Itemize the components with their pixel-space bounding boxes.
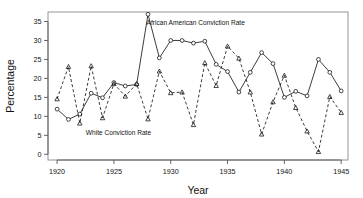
annotation-african-american: African American Conviction Rate	[147, 19, 246, 26]
x-tick-label: 1935	[220, 167, 236, 176]
data-point	[305, 94, 309, 98]
y-tick-label: 5	[38, 131, 42, 140]
data-point	[101, 96, 105, 100]
data-point	[123, 84, 127, 88]
conviction-rate-line-chart: 05101520253035 192019251930193519401945 …	[0, 0, 363, 198]
data-point	[237, 90, 241, 94]
data-point	[328, 70, 332, 74]
y-tick-label: 25	[34, 55, 42, 64]
x-axis-title: Year	[187, 184, 209, 196]
data-point	[282, 95, 286, 99]
x-tick-label: 1930	[163, 167, 179, 176]
x-tick-label: 1945	[333, 167, 349, 176]
data-point	[89, 91, 93, 95]
x-tick-label: 1920	[49, 167, 65, 176]
y-tick-label: 0	[38, 150, 42, 159]
data-point	[180, 39, 184, 43]
data-point	[55, 107, 59, 111]
data-point	[226, 70, 230, 74]
data-point	[339, 89, 343, 93]
data-point	[146, 12, 150, 16]
y-tick-label: 30	[34, 36, 42, 45]
y-axis-title: Percentage	[4, 59, 16, 113]
y-tick-label: 20	[34, 74, 42, 83]
y-tick-label: 35	[34, 17, 42, 26]
data-point	[214, 62, 218, 66]
data-point	[192, 41, 196, 45]
data-point	[203, 39, 207, 43]
data-point	[260, 51, 264, 55]
data-point	[169, 39, 173, 43]
annotation-white: White Conviction Rate	[86, 129, 152, 136]
data-point	[157, 56, 161, 60]
data-point	[317, 58, 321, 62]
data-point	[271, 62, 275, 66]
data-point	[248, 70, 252, 74]
x-tick-label: 1940	[276, 167, 292, 176]
y-tick-label: 10	[34, 112, 42, 121]
x-tick-label: 1925	[106, 167, 122, 176]
data-point	[294, 89, 298, 93]
chart-figure: 05101520253035 192019251930193519401945 …	[0, 0, 363, 198]
y-tick-label: 15	[34, 93, 42, 102]
data-point	[67, 117, 71, 121]
